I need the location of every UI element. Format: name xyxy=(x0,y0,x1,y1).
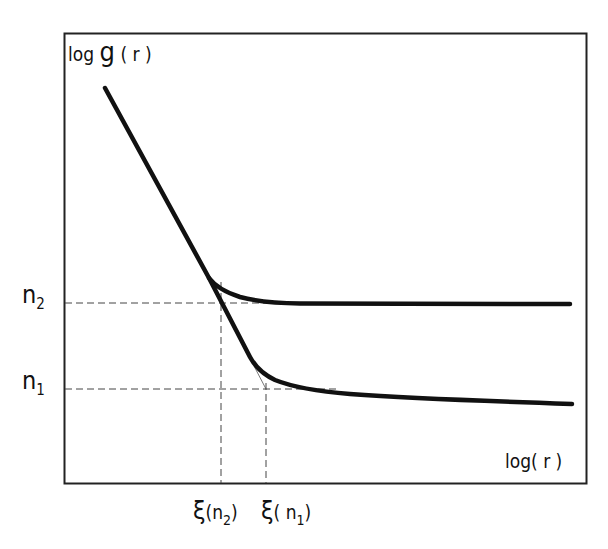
x-tick-xi-n2-sub: 2 xyxy=(223,512,231,528)
y-tick-n1-base: n xyxy=(22,366,36,395)
x-tick-xi-n1-base: n xyxy=(280,501,296,523)
y-axis-label-arg: ( r ) xyxy=(120,43,151,65)
x-tick-xi-n2-base: n xyxy=(212,501,223,523)
y-axis-label: log g ( r ) xyxy=(68,36,152,67)
chart-figure: log g ( r ) log( r ) n2 n1 ξ(n2) ξ( n1) xyxy=(0,0,608,549)
n2-curve xyxy=(105,88,570,304)
x-tick-xi-n1: ξ( n1) xyxy=(261,496,311,528)
x-tick-xi-n1-close: ) xyxy=(305,501,312,523)
n1-curve xyxy=(209,278,572,404)
y-tick-n1-sub: 1 xyxy=(36,381,45,399)
x-tick-xi-n2-symbol: ξ xyxy=(193,496,206,525)
y-axis-label-log: log xyxy=(68,43,94,65)
y-axis-label-g: g xyxy=(100,36,115,67)
x-tick-xi-n2-close: ) xyxy=(231,501,238,523)
x-tick-xi-n2: ξ(n2) xyxy=(193,496,238,528)
x-axis-label: log( r ) xyxy=(505,450,562,472)
y-tick-n2: n2 xyxy=(22,280,45,313)
y-tick-n2-base: n xyxy=(22,280,36,309)
y-tick-n2-sub: 2 xyxy=(36,295,45,313)
x-tick-xi-n1-symbol: ξ xyxy=(261,496,274,525)
x-tick-xi-n1-sub: 1 xyxy=(296,512,304,528)
y-tick-n1: n1 xyxy=(22,366,45,399)
plot-frame xyxy=(65,34,587,484)
